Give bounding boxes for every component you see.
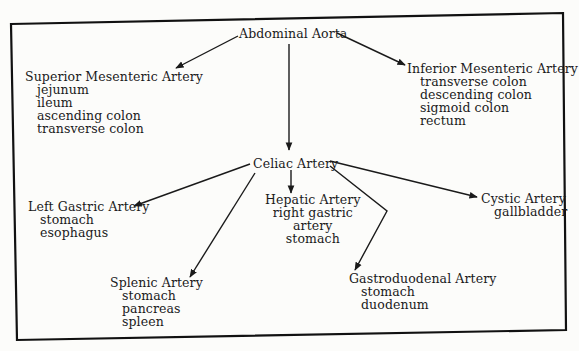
supply-item: rectum <box>407 114 578 127</box>
supply-item: spleen <box>110 315 203 328</box>
node-title: Abdominal Aorta <box>239 27 347 40</box>
node-cystic-artery: Cystic Artery gallbladder <box>481 192 567 218</box>
arrow-celiac-to-splenic <box>190 173 255 277</box>
supply-item: duodenum <box>349 298 496 311</box>
diagram-canvas: Abdominal Aorta Superior Mesenteric Arte… <box>0 0 579 351</box>
supply-item: esophagus <box>28 226 150 239</box>
node-left-gastric-artery: Left Gastric Artery stomach esophagus <box>28 200 150 239</box>
supply-item: transverse colon <box>25 122 203 135</box>
node-gastroduodenal-artery: Gastroduodenal Artery stomach duodenum <box>349 272 496 311</box>
node-splenic-artery: Splenic Artery stomach pancreas spleen <box>110 276 203 328</box>
node-title: Celiac Artery <box>253 157 338 170</box>
supply-item: gallbladder <box>481 205 567 218</box>
node-abdominal-aorta: Abdominal Aorta <box>239 27 347 40</box>
node-celiac-artery: Celiac Artery <box>253 157 338 170</box>
node-superior-mesenteric-artery: Superior Mesenteric Artery jejunum ileum… <box>25 70 203 135</box>
node-hepatic-artery: Hepatic Artery right gastric artery stom… <box>265 193 361 245</box>
arrow-celiac-to-left-gastric <box>134 164 250 206</box>
node-inferior-mesenteric-artery: Inferior Mesenteric Artery transverse co… <box>407 62 578 127</box>
supply-item: stomach <box>265 232 361 245</box>
arrow-aorta-to-sma <box>176 36 238 68</box>
